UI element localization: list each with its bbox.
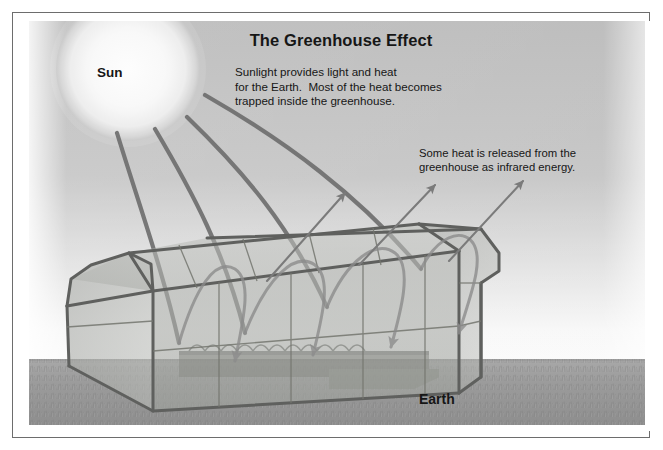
sun-label: Sun bbox=[97, 65, 123, 80]
figure-canvas: The Greenhouse Effect Sun Sunlight provi… bbox=[0, 0, 663, 450]
earth-label: Earth bbox=[419, 391, 455, 407]
figure-title: The Greenhouse Effect bbox=[29, 31, 653, 50]
illustration-area: The Greenhouse Effect Sun Sunlight provi… bbox=[29, 21, 653, 431]
art-bottom-margin bbox=[29, 425, 653, 431]
figure-frame: The Greenhouse Effect Sun Sunlight provi… bbox=[12, 12, 650, 438]
infrared-annotation: Some heat is released from the greenhous… bbox=[419, 146, 576, 175]
corner-post-left bbox=[67, 306, 69, 366]
sunlight-annotation: Sunlight provides light and heat for the… bbox=[235, 65, 442, 109]
greenhouse bbox=[67, 224, 499, 411]
art-right-margin bbox=[645, 21, 653, 431]
